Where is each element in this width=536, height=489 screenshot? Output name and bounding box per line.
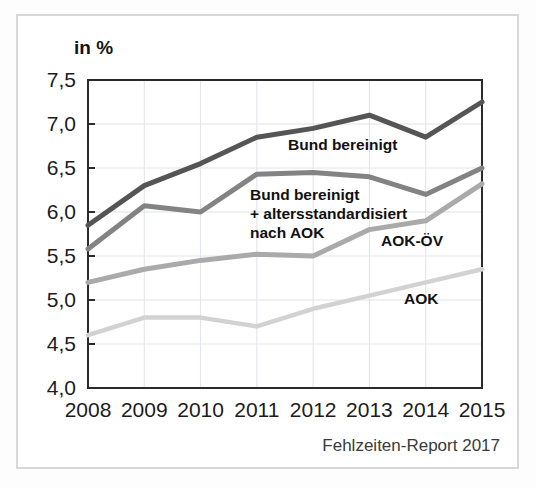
y-tick-label-5-5: 5,5 xyxy=(47,244,76,267)
x-tick-label-2009: 2009 xyxy=(121,398,168,421)
source-note: Fehlzeiten-Report 2017 xyxy=(322,436,500,455)
y-tick-label-4-0: 4,0 xyxy=(47,376,76,399)
chart-figure: 4,04,55,05,56,06,57,07,5 200820092010201… xyxy=(0,0,536,489)
tick-marks xyxy=(88,124,95,344)
x-tick-label-2008: 2008 xyxy=(65,398,112,421)
y-tick-label-7-5: 7,5 xyxy=(47,68,76,91)
line-chart: 4,04,55,05,56,06,57,07,5 200820092010201… xyxy=(0,0,536,489)
x-tick-label-2013: 2013 xyxy=(346,398,393,421)
y-tick-label-6-0: 6,0 xyxy=(47,200,76,223)
y-tick-label-4-5: 4,5 xyxy=(47,332,76,355)
x-tick-label-2014: 2014 xyxy=(402,398,449,421)
y-tick-label-5-0: 5,0 xyxy=(47,288,76,311)
x-axis-tick-labels: 20082009201020112012201320142015 xyxy=(65,398,506,421)
x-tick-label-2011: 2011 xyxy=(234,398,279,421)
x-tick-label-2012: 2012 xyxy=(290,398,337,421)
annotation-aok: AOK xyxy=(404,290,439,307)
annotation-aok-oev: AOK-ÖV xyxy=(381,232,444,249)
y-tick-label-7-0: 7,0 xyxy=(47,112,76,135)
annotation-bund-standardisiert-line2: + altersstandardisiert xyxy=(250,205,407,222)
y-axis-unit-label: in % xyxy=(74,37,113,58)
annotation-bund-standardisiert-line1: Bund bereinigt xyxy=(250,186,359,203)
x-tick-label-2010: 2010 xyxy=(177,398,224,421)
y-axis-tick-labels: 4,04,55,05,56,06,57,07,5 xyxy=(47,68,76,399)
annotation-bund-bereinigt: Bund bereinigt xyxy=(288,136,397,153)
annotation-bund-standardisiert-line3: nach AOK xyxy=(250,224,325,241)
x-tick-label-2015: 2015 xyxy=(459,398,506,421)
y-tick-label-6-5: 6,5 xyxy=(47,156,76,179)
